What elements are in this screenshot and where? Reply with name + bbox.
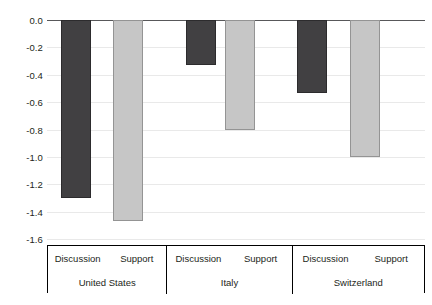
country-label: United States: [48, 271, 166, 294]
y-tick-label: -1.6: [1, 234, 43, 245]
series-group-italy: Discussion Support: [166, 246, 291, 271]
bar-italy-discussion: [186, 20, 216, 65]
bar-italy-support: [225, 20, 255, 130]
series-label-row: Discussion Support Discussion Support Di…: [48, 246, 424, 271]
series-group-united-states: Discussion Support: [48, 246, 166, 271]
plot-area: [47, 20, 425, 239]
gridline: [47, 184, 425, 185]
y-tick-label: -0.6: [1, 97, 43, 108]
y-tick-label: -0.2: [1, 42, 43, 53]
country-group-switzerland: Switzerland: [292, 271, 424, 294]
country-label: Italy: [167, 271, 291, 294]
category-label-table: Discussion Support Discussion Support Di…: [47, 245, 425, 293]
y-tick-label: -1.0: [1, 151, 43, 162]
y-tick-label: -0.8: [1, 124, 43, 135]
series-label-support: Support: [358, 246, 424, 271]
series-group-switzerland: Discussion Support: [292, 246, 424, 271]
bar-chart: 0.0 -0.2 -0.4 -0.6 -0.8 -1.0 -1.2 -1.4 -…: [0, 0, 432, 305]
country-group-united-states: United States: [48, 271, 166, 294]
gridline: [47, 239, 425, 240]
gridline: [47, 157, 425, 158]
series-label-discussion: Discussion: [293, 246, 359, 271]
country-label: Switzerland: [293, 271, 424, 294]
country-group-italy: Italy: [166, 271, 291, 294]
series-label-discussion: Discussion: [167, 246, 229, 271]
bar-united-states-discussion: [61, 20, 91, 198]
series-label-support: Support: [230, 246, 292, 271]
bar-switzerland-discussion: [297, 20, 327, 93]
y-tick-label: -0.4: [1, 69, 43, 80]
bar-united-states-support: [113, 20, 143, 221]
gridline: [47, 212, 425, 213]
series-label-support: Support: [107, 246, 166, 271]
y-tick-label: -1.4: [1, 206, 43, 217]
country-label-row: United States Italy Switzerland: [48, 271, 424, 294]
y-tick-label: -1.2: [1, 179, 43, 190]
y-tick-label: 0.0: [1, 15, 43, 26]
bar-switzerland-support: [350, 20, 380, 157]
series-label-discussion: Discussion: [48, 246, 107, 271]
